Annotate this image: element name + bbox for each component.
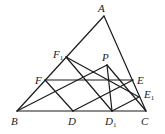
segments bbox=[17, 16, 146, 111]
point-label-b: B bbox=[11, 115, 18, 127]
point-labels: ABCDD1EE1FF1P bbox=[11, 2, 155, 129]
point-label-e1: E1 bbox=[143, 88, 155, 102]
point-label-d: D bbox=[67, 115, 76, 127]
segment-b-p bbox=[17, 65, 107, 111]
triangle-geometry-diagram: ABCDD1EE1FF1P bbox=[0, 0, 165, 134]
segment-p-d1 bbox=[107, 65, 112, 111]
point-label-f: F bbox=[34, 74, 42, 86]
segment-d1-e1 bbox=[112, 97, 139, 111]
point-label-e: E bbox=[136, 74, 144, 86]
point-label-p: P bbox=[101, 51, 109, 63]
point-label-d1: D1 bbox=[104, 115, 117, 129]
point-label-a: A bbox=[97, 2, 105, 14]
point-label-c: C bbox=[141, 115, 149, 127]
point-label-f1: F1 bbox=[52, 48, 64, 62]
segment-f1-e1 bbox=[66, 57, 139, 97]
